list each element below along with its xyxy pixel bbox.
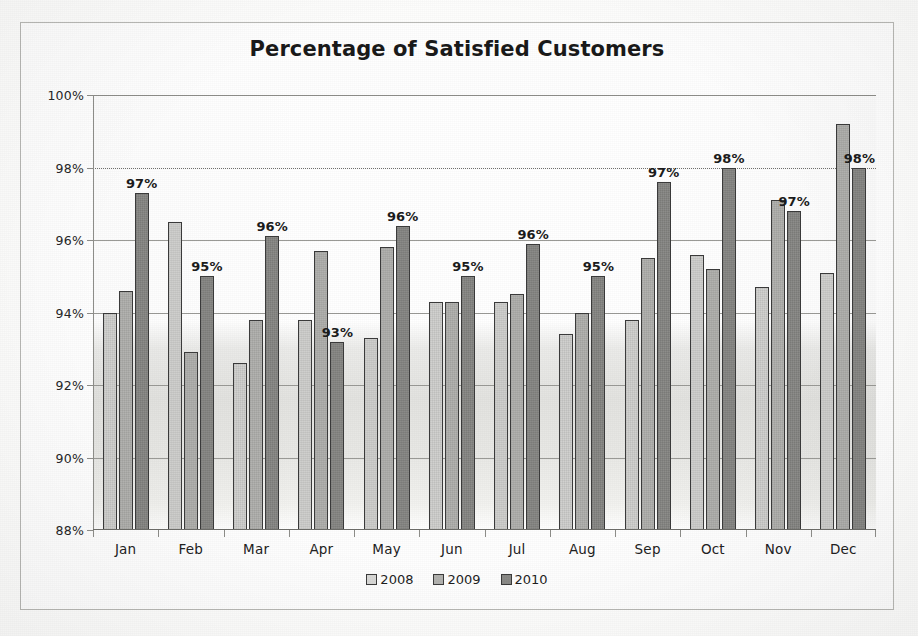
bar-2009 (249, 320, 263, 530)
x-category-label: Nov (765, 541, 792, 557)
bar-data-label: 95% (583, 259, 614, 274)
chart-title: Percentage of Satisfied Customers (21, 37, 893, 61)
bar-2008 (559, 334, 573, 530)
bar-group: 95% (550, 95, 615, 530)
bar-2010: 97% (135, 193, 149, 530)
y-tick-label: 100% (47, 88, 84, 103)
bar-data-label: 97% (648, 165, 679, 180)
bar-data-label: 96% (387, 209, 418, 224)
bar-2009 (771, 200, 785, 530)
x-tick-mark (746, 530, 747, 537)
bar-2008 (168, 222, 182, 530)
y-tick-label: 98% (56, 160, 84, 175)
y-axis-tick-labels: 88%90%92%94%96%98%100% (21, 95, 93, 530)
bar-2008 (233, 363, 247, 530)
x-tick-mark (354, 530, 355, 537)
bar-data-label: 97% (126, 176, 157, 191)
bar-group: 95% (158, 95, 223, 530)
x-tick-mark (550, 530, 551, 537)
legend-swatch-icon (433, 574, 444, 585)
x-tick-mark (811, 530, 812, 537)
x-tick-mark (485, 530, 486, 537)
bar-2010: 96% (265, 236, 279, 530)
x-category-label: Aug (569, 541, 596, 557)
bar-2010: 93% (330, 342, 344, 531)
legend-item-2008[interactable]: 2008 (366, 572, 413, 587)
x-tick-mark (93, 530, 94, 537)
bar-data-label: 96% (518, 227, 549, 242)
legend-label: 2009 (447, 572, 480, 587)
legend-item-2009[interactable]: 2009 (433, 572, 480, 587)
bar-data-label: 93% (322, 325, 353, 340)
legend-label: 2010 (515, 572, 548, 587)
bar-data-label: 95% (452, 259, 483, 274)
bar-2009 (575, 313, 589, 531)
bar-2010: 97% (787, 211, 801, 530)
bar-2008 (103, 313, 117, 531)
x-tick-mark (875, 530, 876, 537)
bar-2008 (820, 273, 834, 530)
bar-2009 (184, 352, 198, 530)
bar-data-label: 98% (713, 151, 744, 166)
bar-data-label: 98% (844, 151, 875, 166)
bar-2010: 98% (852, 168, 866, 531)
bar-2010: 97% (657, 182, 671, 530)
x-tick-mark (419, 530, 420, 537)
bar-2010: 95% (461, 276, 475, 530)
bar-2009 (836, 124, 850, 530)
x-category-label: Jul (509, 541, 526, 557)
bar-2010: 96% (396, 226, 410, 531)
bar-2008 (625, 320, 639, 530)
y-tick-label: 88% (56, 523, 84, 538)
x-tick-mark (615, 530, 616, 537)
legend-item-2010[interactable]: 2010 (501, 572, 548, 587)
x-category-label: Sep (635, 541, 661, 557)
bar-2009 (119, 291, 133, 530)
x-category-label: Apr (309, 541, 333, 557)
bar-2008 (755, 287, 769, 530)
bar-group: 98% (680, 95, 745, 530)
bar-2009 (641, 258, 655, 530)
bar-2010: 95% (200, 276, 214, 530)
x-tick-mark (224, 530, 225, 537)
bar-2008 (429, 302, 443, 530)
bar-group: 96% (485, 95, 550, 530)
bar-data-label: 97% (779, 194, 810, 209)
bar-2010: 96% (526, 244, 540, 530)
bar-groups: 97%95%96%93%96%95%96%95%97%98%97%98% (93, 95, 876, 530)
legend-swatch-icon (366, 574, 377, 585)
y-tick-label: 92% (56, 378, 84, 393)
x-category-label: Jun (441, 541, 463, 557)
chart-frame: Percentage of Satisfied Customers 88%90%… (20, 22, 894, 610)
bar-2009 (706, 269, 720, 530)
bar-group: 98% (811, 95, 876, 530)
legend-swatch-icon (501, 574, 512, 585)
x-tick-mark (680, 530, 681, 537)
bar-data-label: 96% (257, 219, 288, 234)
bar-group: 93% (289, 95, 354, 530)
y-tick-label: 90% (56, 450, 84, 465)
y-tick-label: 96% (56, 233, 84, 248)
x-category-label: Dec (830, 541, 857, 557)
y-tick-label: 94% (56, 305, 84, 320)
bar-group: 96% (354, 95, 419, 530)
bar-2008 (298, 320, 312, 530)
bar-2008 (364, 338, 378, 530)
bar-2008 (690, 255, 704, 531)
bar-group: 95% (419, 95, 484, 530)
bar-group: 96% (224, 95, 289, 530)
y-axis-line (93, 95, 94, 530)
x-category-label: Jan (115, 541, 136, 557)
bar-data-label: 95% (191, 259, 222, 274)
bar-2009 (445, 302, 459, 530)
bar-2009 (314, 251, 328, 530)
bar-2010: 98% (722, 168, 736, 531)
plot-area: 97%95%96%93%96%95%96%95%97%98%97%98% (93, 95, 876, 530)
x-category-label: Oct (701, 541, 725, 557)
chart-legend: 200820092010 (21, 572, 893, 587)
x-tick-mark (289, 530, 290, 537)
bar-group: 97% (615, 95, 680, 530)
bar-2008 (494, 302, 508, 530)
bar-group: 97% (746, 95, 811, 530)
bar-2009 (510, 294, 524, 530)
